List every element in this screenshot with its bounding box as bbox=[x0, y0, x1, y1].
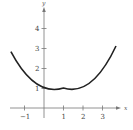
y-axis-label: y bbox=[41, 0, 46, 7]
x-tick-label: 2 bbox=[81, 113, 85, 121]
x-tick-label: 1 bbox=[62, 113, 66, 121]
y-tick-label: 2 bbox=[35, 65, 39, 73]
y-axis-arrow-icon bbox=[42, 7, 46, 12]
y-tick-label: 3 bbox=[35, 45, 39, 53]
x-axis-arrow-icon bbox=[116, 106, 121, 110]
x-axis-label: x bbox=[124, 104, 128, 111]
y-tick-label: 1 bbox=[35, 85, 39, 93]
function-graph: x y −1 1 2 3 1 2 3 4 bbox=[0, 0, 133, 130]
function-curve bbox=[11, 46, 116, 89]
y-tick-label: 4 bbox=[35, 25, 40, 33]
x-tick-label: −1 bbox=[20, 113, 30, 121]
x-tick-label: 3 bbox=[101, 113, 105, 121]
